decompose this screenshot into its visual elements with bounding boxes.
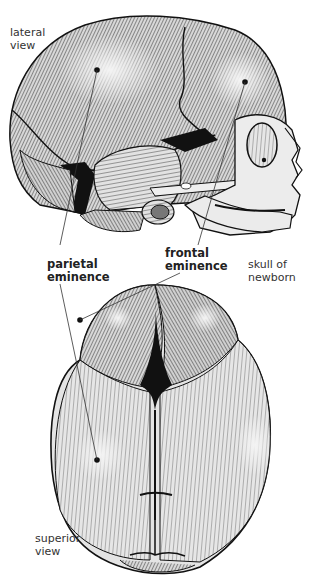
parietal-eminence-label: parietal eminence (47, 258, 110, 284)
skull-of-newborn-caption: skull of newborn (248, 258, 296, 284)
superior-view-skull (51, 285, 273, 574)
superior-view-label: superior view (35, 532, 80, 558)
skull-illustration (0, 0, 311, 580)
lateral-view-skull (10, 16, 302, 235)
frontal-eminence-label: frontal eminence (165, 247, 228, 273)
lateral-view-label: lateral view (10, 26, 45, 52)
newborn-skull-diagram: lateral view parietal eminence frontal e… (0, 0, 311, 580)
